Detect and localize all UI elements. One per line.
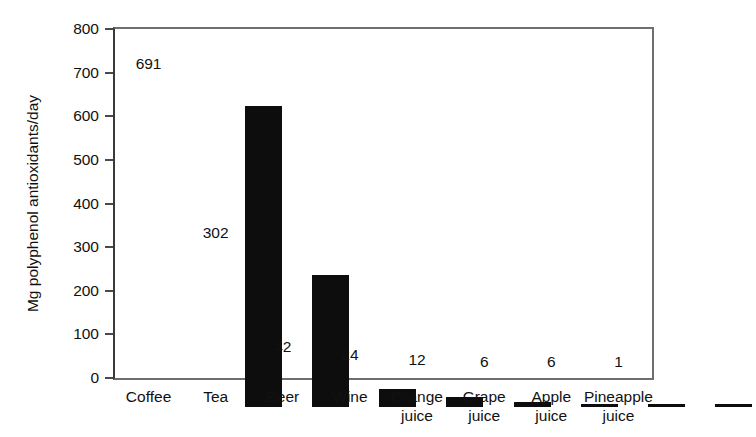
bar-value-label: 1 — [614, 354, 623, 370]
bar-value-label: 302 — [203, 225, 229, 241]
bar — [715, 404, 752, 407]
bars-layer — [230, 58, 756, 407]
x-axis-category-label: Tea — [203, 387, 228, 406]
y-axis-tick-label: 600 — [0, 108, 99, 124]
bar-value-label: 24 — [341, 347, 358, 363]
bar — [245, 106, 282, 407]
x-axis-category-label: Grapejuice — [463, 387, 506, 425]
x-axis-category-label: Pineapplejuice — [584, 387, 653, 425]
y-axis-tick-label: 100 — [0, 326, 99, 342]
x-axis-category-label-line2: juice — [584, 406, 653, 425]
bar-value-label: 6 — [547, 354, 556, 370]
y-axis-tick-label: 800 — [0, 21, 99, 37]
bar-value-label: 6 — [480, 354, 489, 370]
bar-value-label: 42 — [274, 339, 291, 355]
x-axis-category-label-line2: juice — [463, 406, 506, 425]
bar-value-label: 691 — [136, 56, 162, 72]
x-axis-category-label: Coffee — [126, 387, 171, 406]
x-axis-category-label-line2: juice — [391, 406, 443, 425]
y-axis-tick-label: 500 — [0, 152, 99, 168]
y-axis-tick-label: 400 — [0, 196, 99, 212]
x-axis-category-label-line2: juice — [531, 406, 571, 425]
y-axis-tick-label: 300 — [0, 239, 99, 255]
y-axis-tick-label: 700 — [0, 65, 99, 81]
x-axis-category-label: Beer — [266, 387, 299, 406]
x-axis-category-label: Applejuice — [531, 387, 571, 425]
bar — [648, 404, 685, 407]
x-axis-category-label: Orangejuice — [391, 387, 443, 425]
bar-value-label: 12 — [408, 352, 425, 368]
y-axis-tick-label: 0 — [0, 370, 99, 386]
plot-area — [113, 27, 654, 380]
x-axis-category-label: Wine — [332, 387, 367, 406]
y-axis-tick-label: 200 — [0, 283, 99, 299]
